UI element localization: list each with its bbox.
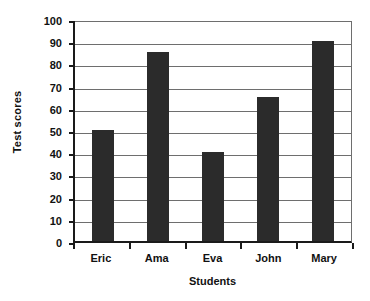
y-axis-tick-label: 20: [50, 193, 62, 205]
y-axis-tick-label: 40: [50, 148, 62, 160]
x-axis-tick-label: Ama: [145, 252, 169, 264]
x-axis-tickmark: [296, 243, 298, 249]
y-axis-tick-label: 50: [50, 126, 62, 138]
bar-slot: [130, 22, 185, 241]
bar-slot: [296, 22, 351, 241]
x-axis-tickmark: [352, 243, 354, 249]
y-axis-tick-label: 60: [50, 104, 62, 116]
x-axis-tickmark: [73, 243, 75, 249]
bar[interactable]: [312, 41, 334, 241]
x-axis-title: Students: [73, 275, 352, 287]
y-axis-tick-label: 80: [50, 59, 62, 71]
x-axis-tick-label: Mary: [311, 252, 337, 264]
y-axis-tick-label: 10: [50, 215, 62, 227]
y-axis-tick-label: 90: [50, 37, 62, 49]
plot-area: [73, 21, 352, 243]
y-axis-tick-label: 30: [50, 170, 62, 182]
bar-slot: [241, 22, 296, 241]
y-axis-tick-label: 100: [44, 15, 62, 27]
x-axis-tickmark: [240, 243, 242, 249]
bar[interactable]: [202, 152, 224, 241]
x-axis-tick-label: Eva: [203, 252, 223, 264]
bar-chart: Test scores 0102030405060708090100 EricA…: [0, 0, 370, 301]
bar[interactable]: [147, 52, 169, 241]
x-axis-tick-labels: EricAmaEvaJohnMary: [73, 252, 352, 270]
y-axis-tick-labels: 0102030405060708090100: [34, 21, 66, 243]
y-axis-title: Test scores: [0, 0, 34, 243]
y-axis-tick-label: 70: [50, 82, 62, 94]
y-axis-tick-label: 0: [56, 237, 62, 249]
bars-layer: [75, 22, 351, 241]
x-axis-tickmark: [129, 243, 131, 249]
x-axis-tick-label: John: [255, 252, 281, 264]
bar[interactable]: [257, 97, 279, 241]
x-axis-tickmark: [185, 243, 187, 249]
bar-slot: [75, 22, 130, 241]
bar-slot: [185, 22, 240, 241]
x-axis-tick-label: Eric: [90, 252, 111, 264]
y-axis-title-label: Test scores: [11, 90, 23, 153]
bar[interactable]: [92, 130, 114, 241]
